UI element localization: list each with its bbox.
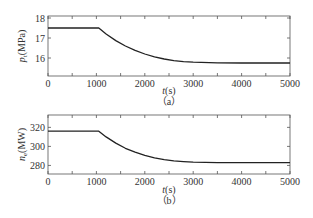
x-tick-label: 1000 (86, 176, 106, 187)
x-tick-label: 3000 (183, 78, 203, 89)
y-tick-label: 17 (35, 33, 45, 44)
x-tick-label: 1000 (86, 78, 106, 89)
x-tick-label: 4000 (232, 176, 252, 187)
x-tick-label: 4000 (232, 78, 252, 89)
y-tick-label: 320 (30, 122, 45, 133)
y-tick-label: 280 (30, 160, 45, 171)
x-tick-label: 0 (46, 78, 51, 89)
x-tick-label: 3000 (183, 176, 203, 187)
plot-frame (48, 115, 290, 174)
y-tick-label: 18 (35, 13, 45, 24)
series-line-p_t (48, 28, 290, 63)
y-tick-label: 300 (30, 141, 45, 152)
x-tick-label: 5000 (280, 176, 300, 187)
figure: 010002000300040005000161718pt(MPa)t(s)（a… (0, 0, 313, 218)
panel-a: 010002000300040005000161718pt(MPa)t(s)（a… (16, 13, 300, 108)
x-tick-label: 2000 (135, 78, 155, 89)
y-tick-label: 16 (35, 53, 45, 64)
y-axis-label: pt(MPa) (16, 30, 29, 64)
y-axis-label: ne(MW) (16, 128, 29, 161)
panel-b: 010002000300040005000280300320ne(MW)t(s)… (16, 115, 300, 206)
x-tick-label: 0 (46, 176, 51, 187)
panel-caption: （a） (157, 96, 181, 107)
series-line-n_e (48, 131, 290, 162)
panel-caption: （b） (157, 195, 182, 206)
plot-frame (48, 16, 290, 76)
x-tick-label: 5000 (280, 78, 300, 89)
x-tick-label: 2000 (135, 176, 155, 187)
